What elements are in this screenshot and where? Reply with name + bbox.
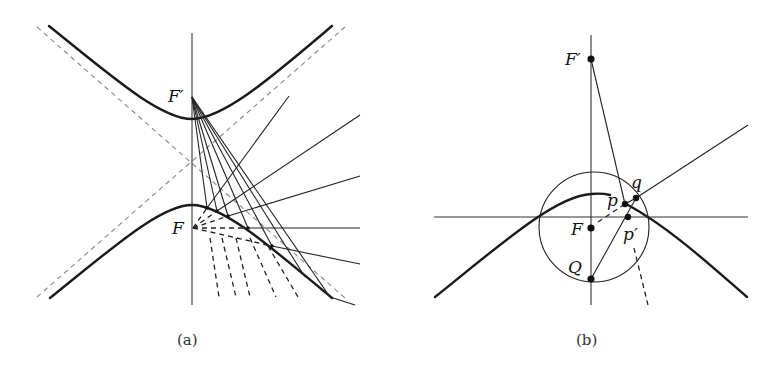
hyperbola-branch-right [628,205,747,297]
asymptote-2 [37,27,345,297]
label-p-b: p [607,190,618,210]
panel-b: F′ F Q p q p′ (b) [434,35,748,349]
point-q [633,195,639,201]
label-F-prime-b: F′ [564,49,581,69]
caption-b: (b) [576,331,597,349]
hyperbola-lower-branch [50,205,332,298]
panel-a: F′ F (a) [37,26,360,349]
figure-canvas: F′ F (a) F′ F Q p [0,0,774,375]
point-p [622,201,628,207]
point-F-prime [587,55,594,62]
rays-from-F-prime [192,97,330,297]
asymptote-1 [37,27,345,298]
ray-q-outward [636,125,748,198]
line-F-prime-to-p [591,59,625,204]
label-p-prime-b: p′ [623,224,638,244]
point-F [587,224,594,231]
label-F-a: F [171,218,185,238]
dashed-extensions [210,238,298,297]
hyperbola-upper-branch [49,26,332,119]
caption-a: (a) [177,331,198,349]
label-q-b: q [631,172,642,192]
label-F-prime-a: F′ [167,86,184,106]
label-Q-b: Q [568,257,582,277]
point-p-prime [625,214,631,220]
point-Q [587,275,594,282]
label-F-b: F [570,219,584,239]
